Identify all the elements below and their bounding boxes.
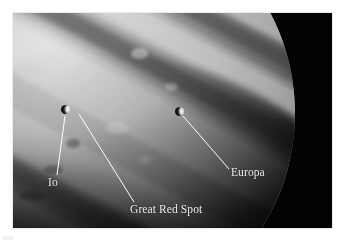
moon-io-marker (61, 105, 70, 114)
annotation-label-io: Io (48, 177, 58, 189)
figure-root: Io Great Red Spot Europa (0, 0, 340, 243)
moon-io-shadow (61, 105, 70, 114)
annotation-label-europa: Europa (231, 167, 265, 179)
jupiter-night-side (13, 13, 295, 228)
moon-europa-shadow (175, 107, 184, 116)
moon-europa-marker (175, 107, 184, 116)
photograph-plate (13, 13, 332, 228)
scan-artifact (3, 236, 13, 240)
annotation-label-great-red-spot: Great Red Spot (130, 204, 202, 216)
jupiter-disc (13, 13, 295, 228)
